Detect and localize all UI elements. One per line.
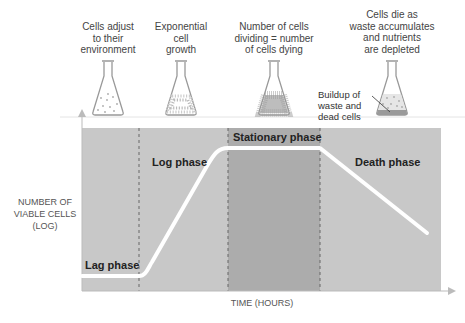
y-axis-arrow-icon [78,109,86,117]
caption-death: Cells die as waste accumulates and nutri… [345,9,439,55]
x-axis-arrow-icon [448,287,456,295]
stationary-phase-label: Stationary phase [233,131,322,143]
flask-lag-icon [93,61,124,115]
y-axis-label: NUMBER OF VIABLE CELLS (LOG) [10,196,80,232]
caption-log: Exponential cell growth [149,21,213,56]
flask-log-icon [166,61,197,115]
caption-stationary: Number of cells dividing = number of cel… [230,21,318,56]
stationary-region [228,128,320,291]
flask-death-icon [372,61,407,115]
death-phase-label: Death phase [355,156,420,168]
flask-stationary-icon [259,61,290,115]
x-axis-label: TIME (HOURS) [222,297,302,309]
lag-phase-label: Lag phase [85,259,139,271]
caption-lag: Cells adjust to their environment [76,21,140,56]
log-phase-label: Log phase [152,156,207,168]
flask-annotation: Buildup of waste and dead cells [318,89,368,122]
death-region [320,128,441,291]
